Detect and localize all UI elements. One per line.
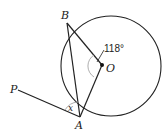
label-angle-118: 118° (104, 43, 124, 54)
label-O: O (106, 62, 115, 75)
radius-AO (80, 65, 102, 117)
angle-pointer (97, 50, 104, 62)
label-P: P (9, 83, 18, 96)
geometry-diagram: B O A P x 118° (0, 0, 166, 135)
center-point (100, 63, 104, 67)
label-x: x (68, 103, 73, 113)
label-A: A (74, 119, 83, 132)
angle-arc-O (88, 55, 94, 77)
label-B: B (60, 9, 69, 22)
